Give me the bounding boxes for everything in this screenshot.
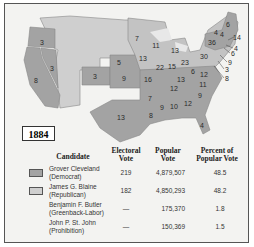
table-row: John P. St. John(Prohibition) — 150,369 … bbox=[20, 218, 245, 236]
state-label-ne: 5 bbox=[117, 59, 121, 66]
state-label-la: 8 bbox=[149, 112, 153, 119]
state-label-or: 3 bbox=[40, 39, 44, 46]
republican-swatch bbox=[29, 187, 43, 195]
popular-vote: 175,370 bbox=[145, 205, 185, 212]
header-candidate: Candidate bbox=[48, 153, 98, 161]
state-label-nj: 9 bbox=[228, 59, 232, 66]
state-label-ny: 36 bbox=[208, 39, 216, 46]
state-label-il: 22 bbox=[156, 64, 164, 71]
state-label-ca: 8 bbox=[34, 77, 38, 84]
electoral-vote: 182 bbox=[116, 187, 136, 194]
popular-vote: 4,879,507 bbox=[145, 169, 185, 176]
state-label-de: 3 bbox=[225, 66, 229, 73]
state-label-oh: 23 bbox=[181, 59, 189, 66]
state-label-mi: 13 bbox=[171, 47, 179, 54]
table-row: James G. Blaine(Republican) 182 4,850,29… bbox=[20, 182, 245, 200]
state-label-ks: 9 bbox=[122, 75, 126, 82]
state-label-in: 15 bbox=[168, 63, 176, 70]
electoral-vote: 219 bbox=[116, 169, 136, 176]
state-label-me: 6 bbox=[226, 21, 230, 28]
candidate-name: Benjamin F. Butler(Greenback-Labor) bbox=[49, 201, 104, 217]
state-label-mo: 16 bbox=[144, 76, 152, 83]
state-label-tn: 12 bbox=[170, 85, 178, 92]
state-label-sc: 9 bbox=[198, 92, 202, 99]
state-label-nc: 11 bbox=[199, 81, 206, 88]
candidate-name: Grover Cleveland(Democrat) bbox=[49, 165, 100, 181]
popular-vote: 4,850,293 bbox=[145, 187, 185, 194]
state-label-al: 10 bbox=[170, 103, 178, 110]
election-year: 1884 bbox=[22, 126, 55, 141]
state-label-mn: 7 bbox=[135, 35, 139, 42]
state-label-co: 3 bbox=[93, 73, 97, 80]
state-label-md: 8 bbox=[225, 75, 229, 82]
percent-vote: 1.5 bbox=[210, 223, 230, 230]
percent-vote: 48.5 bbox=[210, 169, 230, 176]
state-label-ms: 9 bbox=[160, 104, 164, 111]
state-label-ia: 13 bbox=[139, 55, 147, 62]
state-label-pa: 30 bbox=[200, 53, 208, 60]
state-label-ma: 14 bbox=[233, 34, 241, 41]
percent-vote: 48.2 bbox=[210, 187, 230, 194]
percent-vote: 1.8 bbox=[210, 205, 230, 212]
electoral-vote: — bbox=[116, 205, 136, 212]
democrat-swatch bbox=[29, 169, 43, 177]
popular-vote: 150,369 bbox=[145, 223, 185, 230]
state-label-fl: 4 bbox=[200, 122, 204, 129]
electoral-vote: — bbox=[116, 223, 136, 230]
state-label-wi: 11 bbox=[152, 42, 159, 49]
state-label-ga: 12 bbox=[184, 100, 192, 107]
candidate-name: John P. St. John(Prohibition) bbox=[49, 219, 96, 235]
state-label-va: 12 bbox=[200, 71, 208, 78]
state-label-tx: 13 bbox=[117, 114, 125, 121]
table-row: Grover Cleveland(Democrat) 219 4,879,507… bbox=[20, 164, 245, 182]
state-label-nh: 4 bbox=[220, 31, 224, 38]
state-label-wv: 6 bbox=[191, 68, 195, 75]
state-label-ky: 13 bbox=[177, 76, 185, 83]
state-label-nv: 3 bbox=[50, 65, 54, 72]
candidate-name: James G. Blaine(Republican) bbox=[49, 183, 97, 199]
header-popular-vote: Popular Vote bbox=[150, 147, 186, 163]
state-label-vt: 4 bbox=[214, 29, 218, 36]
state-label-ar: 7 bbox=[148, 95, 152, 102]
header-percent: Percent of Popular Vote bbox=[192, 147, 242, 163]
header-electoral-vote: Electoral Vote bbox=[108, 147, 144, 163]
state-label-ct: 6 bbox=[231, 50, 235, 57]
us-electoral-map: 3383591371311162215132313127891012491112… bbox=[0, 0, 254, 160]
table-row: Benjamin F. Butler(Greenback-Labor) — 17… bbox=[20, 200, 245, 218]
